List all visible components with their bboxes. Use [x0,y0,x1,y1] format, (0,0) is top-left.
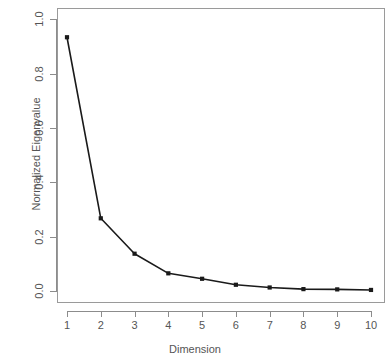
x-axis-tick-label: 6 [221,319,251,331]
y-axis-tick [50,182,56,183]
x-axis-tick [168,311,169,317]
x-axis-tick-label: 10 [356,319,386,331]
data-point [65,35,69,39]
data-point [301,287,305,291]
data-markers [65,35,373,292]
y-axis-tick [50,291,56,292]
y-axis-tick-label: 1.0 [0,11,46,27]
x-axis-tick-label: 8 [288,319,318,331]
data-point [234,283,238,287]
plot-area [57,8,385,303]
data-point [335,287,339,291]
y-axis-line [56,19,57,292]
x-axis-tick-label: 9 [322,319,352,331]
y-axis-tick [50,19,56,20]
x-axis-tick [270,311,271,317]
x-axis-line [67,311,371,312]
x-axis-tick [371,311,372,317]
x-axis-tick [303,311,304,317]
x-axis-tick [67,311,68,317]
x-axis-tick-label: 3 [120,319,150,331]
x-axis-tick [202,311,203,317]
x-axis-tick [135,311,136,317]
data-point [132,252,136,256]
x-axis-tick-label: 1 [52,319,82,331]
x-axis-tick [236,311,237,317]
y-axis-tick [50,128,56,129]
y-axis-title: Normalized Eigenvalue [30,54,42,254]
x-axis-tick-label: 7 [255,319,285,331]
x-axis-tick-label: 2 [86,319,116,331]
data-line [67,37,371,290]
data-point [99,216,103,220]
data-point [200,277,204,281]
x-axis-tick-label: 5 [187,319,217,331]
data-point [166,271,170,275]
y-axis-tick-label: 0.0 [0,283,46,299]
data-point [268,285,272,289]
y-axis-tick [50,74,56,75]
data-point [369,288,373,292]
x-axis-tick [101,311,102,317]
x-axis-tick-label: 4 [153,319,183,331]
x-axis-title: Dimension [0,343,390,355]
y-axis-tick [50,237,56,238]
scree-plot-figure: 0.00.20.40.60.81.0 12345678910 Dimension… [0,0,390,362]
x-axis-tick [337,311,338,317]
